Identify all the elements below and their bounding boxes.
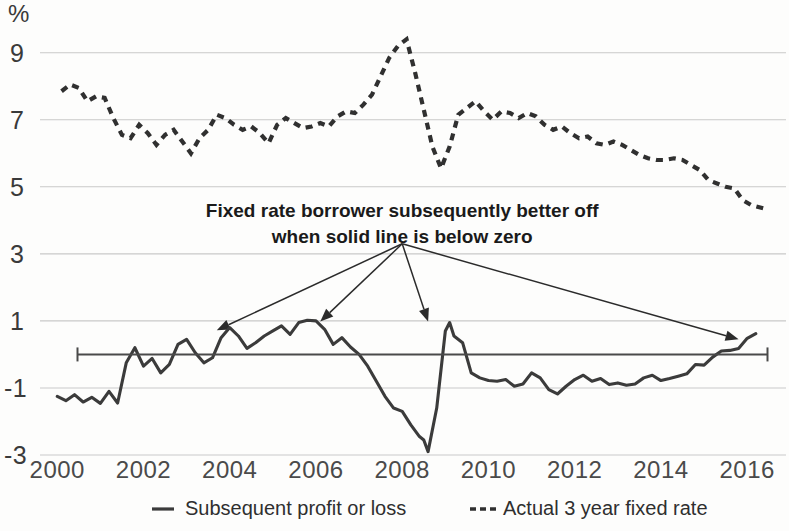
callout-arrow-head-4	[725, 331, 739, 341]
y-tick-label-1: 1	[10, 307, 24, 335]
gridlines	[40, 53, 786, 455]
legend-label-2: Actual 3 year fixed rate	[503, 497, 708, 519]
y-tick-label-3: 3	[10, 240, 24, 268]
chart-container: 97531-1-3 % 2000200220042006200820102012…	[0, 0, 789, 531]
annotation-line-1: Fixed rate borrower subsequently better …	[206, 200, 599, 221]
y-tick-label-5: 5	[10, 173, 24, 201]
annotation-line-2: when solid line is below zero	[271, 226, 533, 247]
x-tick-label-2002: 2002	[116, 456, 171, 483]
x-tick-label-2000: 2000	[30, 456, 85, 483]
legend-label-1: Subsequent profit or loss	[185, 497, 406, 519]
zero-reference-line	[77, 347, 768, 361]
chart-legend: Subsequent profit or lossActual 3 year f…	[152, 497, 708, 519]
y-axis-unit-label: %	[8, 0, 29, 27]
line-chart: 97531-1-3 % 2000200220042006200820102012…	[0, 0, 789, 531]
y-tick-label-neg1: -1	[4, 374, 27, 402]
y-tick-label-neg3: -3	[4, 441, 27, 469]
series-line-subsequent-profit-loss	[57, 320, 756, 451]
x-tick-label-2010: 2010	[461, 456, 516, 483]
x-tick-label-2012: 2012	[547, 456, 602, 483]
x-tick-label-2008: 2008	[375, 456, 430, 483]
y-axis-tick-labels: 97531-1-3	[4, 39, 27, 469]
x-axis-tick-labels: 200020022004200620082010201220142016	[30, 456, 775, 483]
x-tick-label-2006: 2006	[288, 456, 343, 483]
series-line-actual-fixed-rate	[62, 39, 765, 208]
callout-arrow-line-1	[229, 244, 403, 325]
callout-arrow-head-3	[419, 308, 429, 322]
x-tick-label-2004: 2004	[202, 456, 257, 483]
y-tick-label-9: 9	[10, 39, 24, 67]
y-tick-label-7: 7	[10, 106, 24, 134]
x-tick-label-2016: 2016	[719, 456, 774, 483]
x-tick-label-2014: 2014	[633, 456, 688, 483]
callout-note: Fixed rate borrower subsequently better …	[206, 200, 599, 247]
